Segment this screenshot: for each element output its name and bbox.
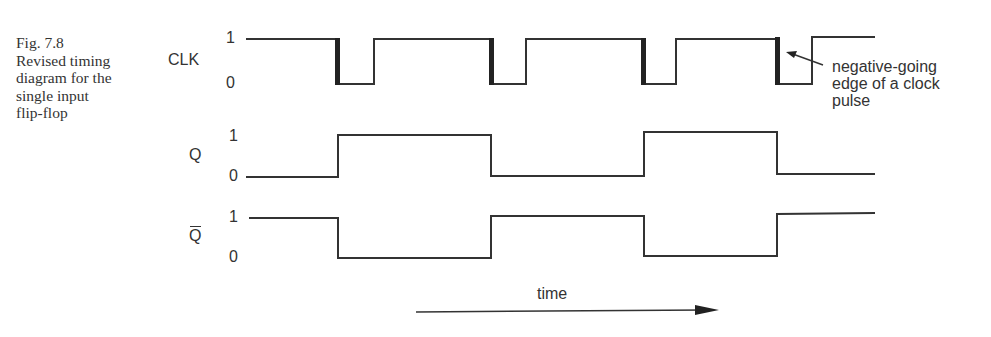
annotation-line: pulse bbox=[832, 92, 940, 109]
clk-falling-edge bbox=[775, 37, 780, 85]
annotation-line: edge of a clock bbox=[832, 75, 940, 92]
clk-falling-edge bbox=[641, 38, 646, 85]
timing-diagram bbox=[0, 0, 991, 337]
annotation-line: negative-going bbox=[832, 58, 940, 75]
clk-falling-edge bbox=[335, 38, 340, 85]
clk-falling-edge bbox=[489, 38, 494, 85]
negative-edge-annotation: negative-going edge of a clock pulse bbox=[832, 58, 940, 109]
clk-waveform bbox=[246, 37, 875, 84]
q-waveform bbox=[246, 132, 875, 177]
q-bar-waveform bbox=[249, 213, 875, 258]
time-axis-arrowhead bbox=[695, 305, 719, 315]
time-axis-label: time bbox=[537, 285, 567, 303]
time-axis-line bbox=[416, 310, 705, 312]
annotation-arrowhead bbox=[786, 51, 797, 58]
